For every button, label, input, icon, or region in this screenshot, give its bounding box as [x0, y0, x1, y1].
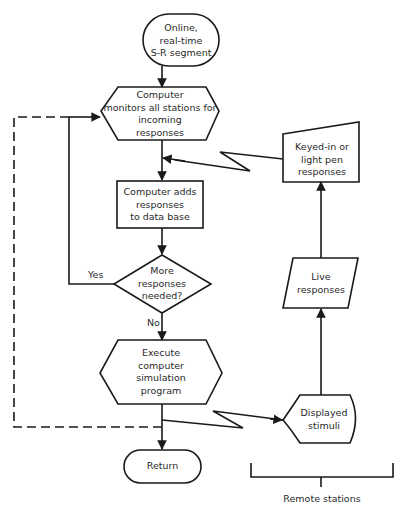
monitor-node: Computer monitors all stations for incom… [101, 89, 219, 139]
keyed-in-node: Keyed-in or light pen responses [284, 141, 360, 179]
execute-node: Execute computer simulation program [100, 347, 222, 397]
return-terminator: Return [124, 460, 201, 473]
transmission-link-to-display [162, 411, 283, 428]
decision-node: More responses needed? [122, 265, 202, 303]
transmission-link-to-monitor [175, 152, 283, 171]
add-db-node: Computer adds responses to data base [117, 186, 203, 224]
remote-stations-label: Remote stations [282, 493, 362, 506]
flowchart-canvas [0, 0, 402, 512]
displayed-stimuli-node: Displayed stimuli [291, 407, 357, 432]
yes-label: Yes [88, 269, 103, 282]
yes-loop-line [69, 117, 114, 284]
remote-stations-bracket [251, 463, 393, 477]
live-responses-node: Live responses [288, 271, 354, 296]
no-label: No [147, 317, 160, 330]
start-terminator: Online, real-time S-R segment [143, 22, 219, 60]
